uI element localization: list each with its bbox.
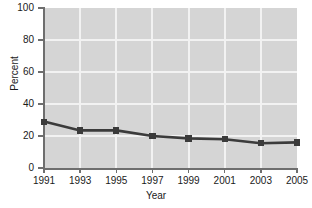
chart-figure: 020406080100 199119931995199719992001200…	[0, 0, 312, 208]
data-point-marker: 1991: 29	[41, 119, 47, 125]
data-series-layer: 1991: 291993: 23.51995: 23.51997: 201999…	[0, 0, 312, 208]
data-point-marker: 1997: 20	[149, 133, 155, 139]
data-point-marker: 2001: 18	[222, 136, 228, 142]
data-point-marker: 2005: 16	[294, 139, 300, 145]
data-point-marker: 2003: 15.5	[258, 140, 264, 146]
data-point-marker: 1999: 18.5	[185, 135, 191, 141]
data-point-marker: 1993: 23.5	[77, 127, 83, 133]
data-point-marker: 1995: 23.5	[113, 127, 119, 133]
